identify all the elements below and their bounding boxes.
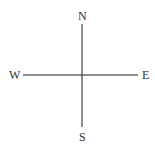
compass-diagram: N W E S xyxy=(0,0,155,150)
east-label: E xyxy=(142,69,149,81)
south-label: S xyxy=(79,131,86,143)
west-label: W xyxy=(9,69,20,81)
north-label: N xyxy=(78,10,87,22)
